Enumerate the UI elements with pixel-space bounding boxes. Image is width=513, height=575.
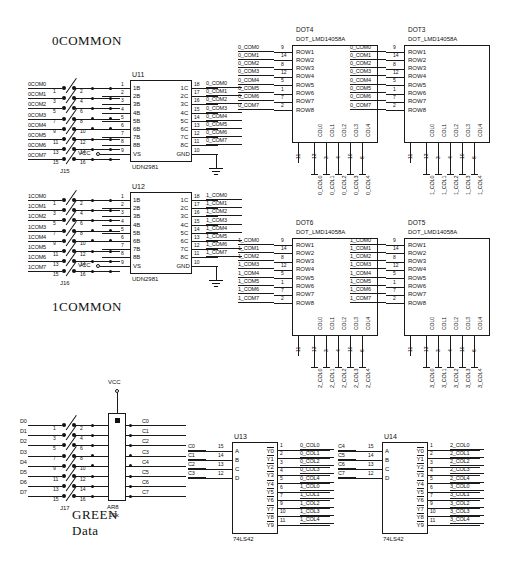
ic-u12-pin-right: 13: [194, 235, 200, 240]
ic-u12-pin-wire-left: [102, 208, 130, 209]
data-node: [129, 464, 132, 467]
dot-com-net: 1_COM0: [238, 238, 259, 244]
ground-u11: [209, 168, 223, 176]
dot-com-net: 0_COM7: [350, 103, 371, 109]
dot-col-tick: [459, 367, 466, 368]
dot-col-pin: 4: [448, 156, 453, 159]
dot-com-net: 1_COM4: [350, 271, 371, 277]
vcc-label-u12: VCC: [78, 262, 91, 268]
ic-u11-pin-left: 4: [121, 107, 124, 112]
dot-col-net: 2_COL1: [330, 369, 336, 388]
dot-row-name: ROW8: [408, 107, 426, 113]
dot-com-net: 0_COM1: [238, 53, 259, 59]
j15-pin-left: 13: [53, 150, 59, 155]
dot-extra-pin: 11: [296, 347, 301, 352]
j15-node: [91, 138, 94, 141]
ic-u12-pinname-right: 8C: [181, 254, 189, 260]
ic-u12-pinname-right: 3C: [181, 213, 189, 219]
dot-com-net: 0_COM4: [238, 78, 259, 84]
dot-col-tick: [447, 174, 454, 175]
ic-u11-pinname-right: 6C: [181, 126, 189, 132]
j15-conn-pad: [62, 96, 66, 100]
decoder-input-pin: 13: [368, 462, 374, 467]
dot-col-name: COL4: [478, 317, 483, 330]
ic-u11-pinname-left: 4B: [133, 110, 140, 116]
j16-input-net: 1COM0: [28, 194, 46, 200]
decoder-output-name: Y7: [417, 505, 424, 512]
dot-com-net: 0_COM6: [238, 94, 259, 100]
data-node: [129, 454, 132, 457]
j15-node: [109, 107, 112, 110]
ic-u12-pin-wire-left: [102, 225, 130, 226]
ic-u11-pin-wire-left: [102, 137, 130, 138]
j15-pin-left: 9: [53, 129, 56, 134]
ic-u11-pin-right: 14: [194, 115, 200, 120]
dot-row-name: ROW4: [408, 73, 426, 79]
schematic-sheet: 0COMMON0COM0120COM1340COM2560COM3780COM4…: [0, 0, 513, 575]
j16-node: [109, 270, 112, 273]
dot-col-net: 1_COL2: [454, 176, 460, 195]
data-pin-left: 3: [53, 436, 56, 441]
dot-row-pin: 2: [281, 296, 284, 301]
dot-row-name: ROW2: [296, 57, 314, 63]
j16-input-wire: [28, 210, 62, 211]
decoder-output-pin: 1: [280, 443, 283, 448]
dot-com-net: 0_COM5: [238, 86, 259, 92]
respack-pin1-marker: [115, 418, 120, 423]
decoder-output-pin: 2: [280, 451, 283, 456]
data-node: [129, 424, 132, 427]
net-underline-0com: [206, 144, 242, 145]
net-out-1com: 1_COM4: [206, 226, 227, 232]
decoder-output-pin: 11: [280, 518, 285, 523]
j15-input-net: 0COM7: [28, 153, 46, 159]
ic-u11-pinname-right: 8C: [181, 142, 189, 148]
dot-com-net: 1_COM1: [350, 246, 371, 252]
decoder-input-net: C6: [338, 462, 345, 468]
data-node: [91, 444, 94, 447]
dot-col-net: 0_COL1: [330, 176, 336, 195]
decoder-output-pin: 4: [280, 468, 283, 473]
ic-u11-pin-left: 9: [121, 148, 124, 153]
ic-u11-pin-wire-left: [102, 113, 130, 114]
decoder-output-pin: 1: [430, 443, 433, 448]
ic-u12-pinname-right: 5C: [181, 230, 189, 236]
data-input-wire: [28, 425, 62, 426]
vcc-wire-respack: [117, 393, 118, 413]
ic-u12-pinname-left: 1B: [133, 197, 140, 203]
ic-u12-pinname-left: 6B: [133, 238, 140, 244]
j16-conn-pad: [62, 208, 66, 212]
dot-row-pin: 5: [281, 78, 284, 83]
j15-pin-right: 6: [80, 109, 83, 114]
data-output-net: C7: [142, 490, 149, 496]
ic-u11-pinname-left: 7B: [133, 134, 140, 140]
dot-com-net: 1_COM5: [350, 279, 371, 285]
decoder-output-pin: 9: [430, 501, 433, 506]
j15-input-net: 0COM3: [28, 113, 46, 119]
ic-u12-pin-wire-right: [192, 266, 218, 267]
ic-u11-pin-right: 16: [194, 98, 200, 103]
dot-col-name: COL3: [354, 124, 359, 137]
data-pin-right: 12: [80, 477, 86, 482]
vcc-label-respack: VCC: [108, 379, 121, 385]
dot-row-pin: 2: [393, 103, 396, 108]
dot-row-pin: 7: [281, 288, 284, 293]
dot-col-tick: [335, 174, 342, 175]
dot-com-net: 0_COM0: [238, 45, 259, 51]
dot-row-pin: 8: [393, 255, 396, 260]
decoder-input-underline: [188, 477, 206, 478]
j16-node: [91, 239, 94, 242]
data-pin-right: 8: [80, 456, 83, 461]
decoder-input-net: C3: [188, 471, 195, 477]
ic-u12-pinname-right: GND: [176, 263, 189, 269]
dot-col-name: COL3: [466, 124, 471, 137]
dot-row-name: ROW8: [296, 300, 314, 306]
dot-row-name: ROW6: [296, 283, 314, 289]
dot-col-pin: 4: [448, 349, 453, 352]
ic-u12-pin-left: 4: [121, 219, 124, 224]
ic-u11-pinname-left: 5B: [133, 118, 140, 124]
net-out-1com: 1_COM3: [206, 218, 227, 224]
dot-row-pin: 12: [281, 263, 287, 268]
dot-col-name: COL4: [478, 124, 483, 137]
dot-col-pin: 6: [360, 349, 365, 352]
dot-col-tick: [471, 367, 478, 368]
